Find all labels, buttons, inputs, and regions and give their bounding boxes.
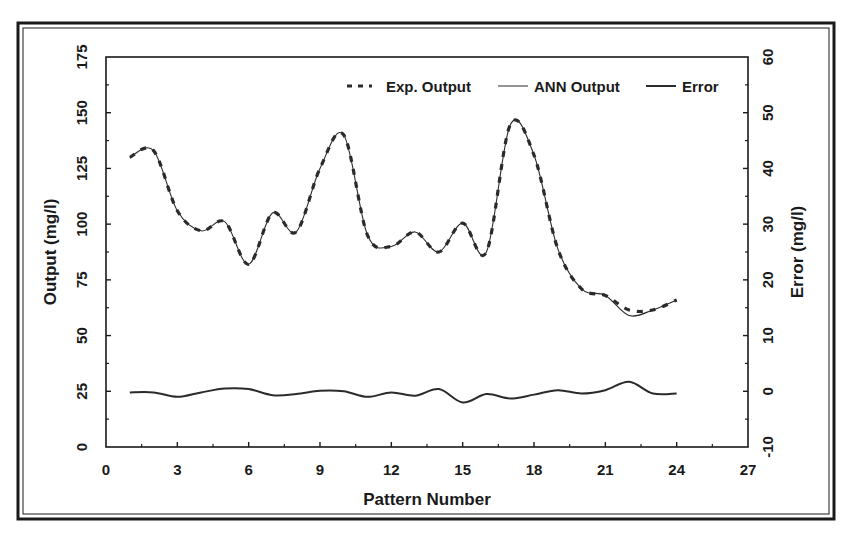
- y2-tick-label: -10: [759, 436, 776, 458]
- legend-label: Error: [682, 78, 719, 95]
- x-tick-label: 21: [597, 461, 614, 478]
- figure-frame: [18, 23, 834, 519]
- y2-tick-label: 0: [759, 387, 776, 395]
- x-tick-label: 9: [316, 461, 324, 478]
- series-exp-output: [130, 120, 677, 312]
- x-tick-label: 24: [668, 461, 685, 478]
- x-tick-label: 18: [526, 461, 543, 478]
- y2-tick-label: 60: [759, 49, 776, 66]
- series-ann-output: [130, 120, 677, 316]
- legend-item-exp-output: Exp. Output: [347, 78, 471, 95]
- y-axis-title: Output (mg/l): [41, 199, 60, 306]
- legend-item-error: Error: [646, 78, 719, 95]
- legend-label: ANN Output: [534, 78, 620, 95]
- y2-tick-label: 40: [759, 160, 776, 177]
- chart-figure: 0369121518212427 0255075100125150175 -10…: [0, 0, 850, 552]
- y2-tick-label: 10: [759, 327, 776, 344]
- y2-tick-label: 30: [759, 216, 776, 233]
- y-tick-label: 75: [73, 272, 90, 289]
- x-tick-label: 15: [454, 461, 471, 478]
- y-tick-label: 50: [73, 327, 90, 344]
- y-tick-label: 175: [73, 44, 90, 69]
- legend-label: Exp. Output: [386, 78, 471, 95]
- x-axis-title: Pattern Number: [363, 490, 491, 509]
- x-tick-label: 6: [244, 461, 252, 478]
- y2-axis-title: Error (mg/l): [788, 206, 807, 299]
- x-tick-label: 0: [102, 461, 110, 478]
- y-tick-label: 25: [73, 383, 90, 400]
- y2-tick-label: 20: [759, 272, 776, 289]
- series-layer: [130, 120, 677, 403]
- y-tick-label: 150: [73, 100, 90, 125]
- y-tick-label: 0: [73, 443, 90, 451]
- x-tick-label: 12: [383, 461, 400, 478]
- y2-tick-label: 50: [759, 104, 776, 121]
- y-tick-label: 100: [73, 212, 90, 237]
- legend-item-ann-output: ANN Output: [498, 78, 620, 95]
- legend: Exp. Output ANN Output Error: [347, 78, 719, 95]
- x-tick-label: 3: [173, 461, 181, 478]
- plot-area: [106, 57, 748, 447]
- series-error: [130, 382, 677, 403]
- x-tick-label: 27: [740, 461, 757, 478]
- y-tick-label: 125: [73, 156, 90, 181]
